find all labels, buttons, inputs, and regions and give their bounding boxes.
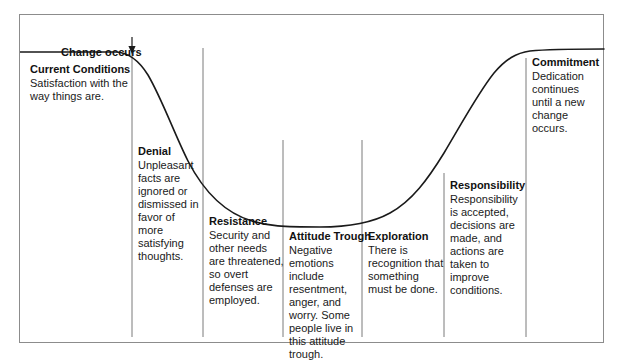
stage-body-exploration: There is recognition that something must…: [368, 244, 444, 296]
stage-commitment: Commitment Dedication continues until a …: [532, 56, 602, 135]
stage-title-resistance: Resistance: [209, 215, 284, 228]
stage-exploration: Exploration There is recognition that so…: [368, 230, 444, 296]
stage-body-responsibility: Responsibility is accepted, decisions ar…: [450, 193, 526, 297]
stage-body-resistance: Security and other needs are threatened,…: [209, 229, 284, 307]
stage-body-attitude-trough: Negative emotions include resentment, an…: [289, 244, 365, 361]
stage-current-conditions: Current Conditions Satisfaction with the…: [30, 63, 130, 103]
stage-title-commitment: Commitment: [532, 56, 602, 69]
stage-body-denial: Unpleasant facts are ignored or dismisse…: [138, 159, 202, 263]
stage-title-exploration: Exploration: [368, 230, 444, 243]
stage-denial: Denial Unpleasant facts are ignored or d…: [138, 145, 202, 263]
change-occurs-label: Change occurs: [61, 46, 142, 58]
stage-resistance: Resistance Security and other needs are …: [209, 215, 284, 307]
stage-title-current-conditions: Current Conditions: [30, 63, 130, 76]
stage-responsibility: Responsibility Responsibility is accepte…: [450, 179, 526, 297]
stage-title-denial: Denial: [138, 145, 202, 158]
stage-body-current-conditions: Satisfaction with the way things are.: [30, 77, 130, 103]
stage-title-responsibility: Responsibility: [450, 179, 526, 192]
stage-body-commitment: Dedication continues until a new change …: [532, 70, 602, 135]
stage-title-attitude-trough: Attitude Trough: [289, 230, 365, 243]
stage-attitude-trough: Attitude Trough Negative emotions includ…: [289, 230, 365, 361]
diagram-frame: Change occurs Current Conditions Satisfa…: [19, 14, 604, 343]
